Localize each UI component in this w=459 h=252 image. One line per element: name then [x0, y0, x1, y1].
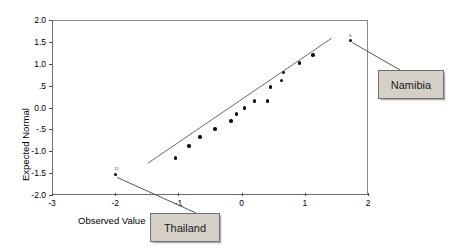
y-tick-label: -.5 — [36, 125, 46, 133]
x-tick-mark — [52, 193, 53, 196]
data-point — [198, 135, 201, 138]
x-tick-mark — [178, 193, 179, 196]
chart-canvas: Expected Normal Observed Value 2.01.51.0… — [0, 0, 459, 252]
x-tick-mark — [305, 193, 306, 196]
x-tick-mark — [115, 193, 116, 196]
data-point — [311, 53, 314, 56]
y-tick-mark — [49, 20, 52, 21]
y-axis-label: Expected Normal — [20, 108, 31, 181]
annotation-thailand-text: Thailand — [164, 222, 206, 234]
x-tick-mark — [368, 193, 369, 196]
x-tick-label: -3 — [37, 199, 67, 207]
y-tick-mark — [49, 64, 52, 65]
y-tick-label: -1.5 — [31, 169, 46, 177]
x-tick-mark — [242, 193, 243, 196]
x-axis-label: Observed Value — [78, 215, 145, 226]
data-point — [174, 156, 177, 159]
data-point — [253, 99, 256, 102]
data-point-case-label: 12 — [114, 167, 118, 171]
y-tick-label: 0.0 — [34, 104, 46, 112]
y-tick-mark — [49, 151, 52, 152]
y-tick-label: -1.0 — [31, 147, 46, 155]
y-tick-mark — [49, 129, 52, 130]
data-point — [235, 112, 238, 115]
x-tick-label: 1 — [290, 199, 320, 207]
y-tick-label: 2.0 — [34, 16, 46, 24]
annotation-namibia: Namibia — [378, 70, 444, 99]
y-tick-mark — [49, 108, 52, 109]
data-point — [229, 119, 232, 122]
data-point — [269, 85, 272, 88]
x-tick-label: 0 — [227, 199, 257, 207]
y-tick-label: 1.5 — [34, 38, 46, 46]
y-tick-label: 1.0 — [34, 60, 46, 68]
annotation-thailand: Thailand — [150, 213, 220, 242]
data-point — [114, 173, 117, 176]
y-tick-label: -2.0 — [31, 191, 46, 199]
annotation-namibia-text: Namibia — [391, 79, 431, 91]
y-tick-mark — [49, 173, 52, 174]
y-tick-mark — [49, 86, 52, 87]
plot-area — [52, 20, 368, 195]
y-tick-mark — [49, 42, 52, 43]
data-point — [266, 99, 269, 102]
data-point-case-label: 6 — [349, 34, 351, 38]
x-tick-label: 2 — [353, 199, 383, 207]
x-tick-label: -2 — [100, 199, 130, 207]
data-point — [187, 144, 190, 147]
data-point — [213, 127, 216, 130]
x-tick-label: -1 — [163, 199, 193, 207]
y-tick-label: .5 — [39, 82, 46, 90]
